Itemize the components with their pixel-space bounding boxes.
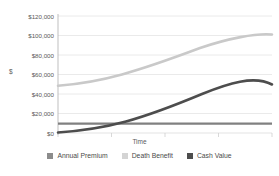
gridlines xyxy=(58,16,272,133)
y-tick-label: $40,000 xyxy=(14,91,54,98)
y-tick-label: $80,000 xyxy=(14,52,54,59)
series-death-benefit xyxy=(58,34,272,85)
legend-item-cash-value[interactable]: Cash Value xyxy=(187,152,232,159)
legend-label: Death Benefit xyxy=(132,152,173,159)
y-tick-label: $0 xyxy=(14,130,54,137)
y-tick-label: $60,000 xyxy=(14,71,54,78)
y-tick-label: $120,000 xyxy=(14,13,54,20)
legend-swatch-icon xyxy=(47,153,53,159)
y-tick-label: $100,000 xyxy=(14,32,54,39)
legend-label: Annual Premium xyxy=(57,152,107,159)
legend-item-annual-premium[interactable]: Annual Premium xyxy=(47,152,107,159)
legend-item-death-benefit[interactable]: Death Benefit xyxy=(122,152,173,159)
chart-plot-area xyxy=(0,0,279,176)
x-axis-label: Time xyxy=(0,138,279,145)
y-axis-label: $ xyxy=(9,68,13,75)
chart-legend: Annual Premium Death Benefit Cash Value xyxy=(0,152,279,159)
x-axis-ticks xyxy=(58,133,272,137)
legend-swatch-icon xyxy=(122,153,128,159)
y-tick-label: $20,000 xyxy=(14,110,54,117)
legend-swatch-icon xyxy=(187,153,193,159)
chart-container: $ $120,000 $100,000 $80,000 $60,000 $40,… xyxy=(0,0,279,176)
legend-label: Cash Value xyxy=(197,152,232,159)
